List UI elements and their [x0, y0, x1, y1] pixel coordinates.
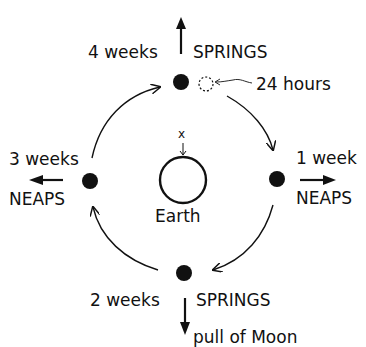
label-top-tide: SPRINGS [193, 44, 268, 61]
earth-x-marker: x [178, 128, 185, 140]
moon-left-icon [82, 173, 98, 189]
moon-right-icon [269, 171, 285, 187]
label-right-tide: NEAPS [296, 190, 352, 207]
label-pull-of-moon: pull of Moon [193, 329, 297, 346]
label-left-tide: NEAPS [9, 191, 65, 208]
earth-label: Earth [155, 208, 201, 225]
moon-bottom-icon [176, 265, 192, 281]
24-hours-pointer-icon [215, 79, 252, 85]
label-24-hours: 24 hours [256, 76, 331, 93]
earth-icon [160, 157, 206, 203]
x-pointer-arrow-icon [180, 143, 186, 155]
label-bottom-tide: SPRINGS [196, 292, 271, 309]
arrow-right-icon [300, 175, 336, 185]
moon-top-icon [173, 74, 189, 90]
arrow-left-icon [29, 175, 63, 185]
arrow-down-icon [180, 298, 190, 335]
label-bottom-time: 2 weeks [90, 292, 160, 309]
orbit-arrow-bottom-to-left [93, 207, 158, 270]
orbit-arrow-left-to-top [92, 87, 160, 158]
orbit-arrow-right-to-bottom [213, 205, 273, 270]
label-right-time: 1 week [296, 150, 357, 167]
orbit-arrow-top-to-right [227, 96, 273, 150]
label-top-time: 4 weeks [88, 44, 158, 61]
arrow-up-icon [176, 17, 186, 54]
dashed-moon-icon [199, 77, 213, 91]
label-left-time: 3 weeks [9, 151, 79, 168]
